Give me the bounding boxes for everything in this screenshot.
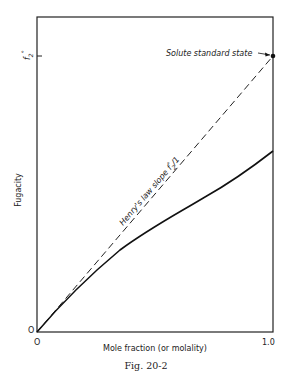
plot-frame [37, 17, 273, 332]
svg-text:f2°: f2° [20, 50, 34, 60]
standard-state-point [271, 54, 276, 59]
x-axis-label: Mole fraction (or molality) [103, 344, 207, 353]
x-one-label: 1.0 [262, 338, 275, 347]
standard-state-label: Solute standard state [166, 49, 252, 58]
y-tick-label-f2: f2° [20, 50, 34, 60]
henry-law-label: Henry's law slope f°2/1 [116, 154, 183, 229]
svg-text:Henry's law slope f°2/1: Henry's law slope f°2/1 [116, 154, 183, 229]
henry-law-line [37, 56, 273, 332]
fugacity-chart: f2° Fugacity O O 1.0 Mole fraction (or m… [0, 0, 295, 380]
y-axis-label: Fugacity [14, 173, 23, 207]
y-zero-label: O [28, 326, 34, 335]
figure-caption: Fig. 20-2 [124, 360, 167, 371]
x-zero-label: O [34, 338, 40, 347]
